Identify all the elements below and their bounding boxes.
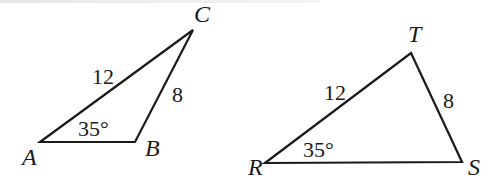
side-label-st: 8 xyxy=(443,88,454,113)
triangles-diagram: C A B 12 8 35° T R S 12 8 35° xyxy=(0,0,489,187)
vertex-label-r: R xyxy=(247,154,263,180)
vertex-label-s: S xyxy=(468,154,480,180)
vertex-label-c: C xyxy=(194,1,211,27)
angle-label-a: 35° xyxy=(78,116,109,141)
angle-label-r: 35° xyxy=(303,137,334,162)
vertex-label-t: T xyxy=(408,21,423,47)
figure-canvas: C A B 12 8 35° T R S 12 8 35° xyxy=(0,0,489,187)
triangle-abc xyxy=(40,30,193,142)
vertex-label-a: A xyxy=(20,144,37,170)
vertex-label-b: B xyxy=(145,135,160,161)
side-label-rt: 12 xyxy=(324,80,346,105)
side-label-bc: 8 xyxy=(172,82,183,107)
side-label-ac: 12 xyxy=(92,64,114,89)
triangle-rst xyxy=(265,53,462,163)
